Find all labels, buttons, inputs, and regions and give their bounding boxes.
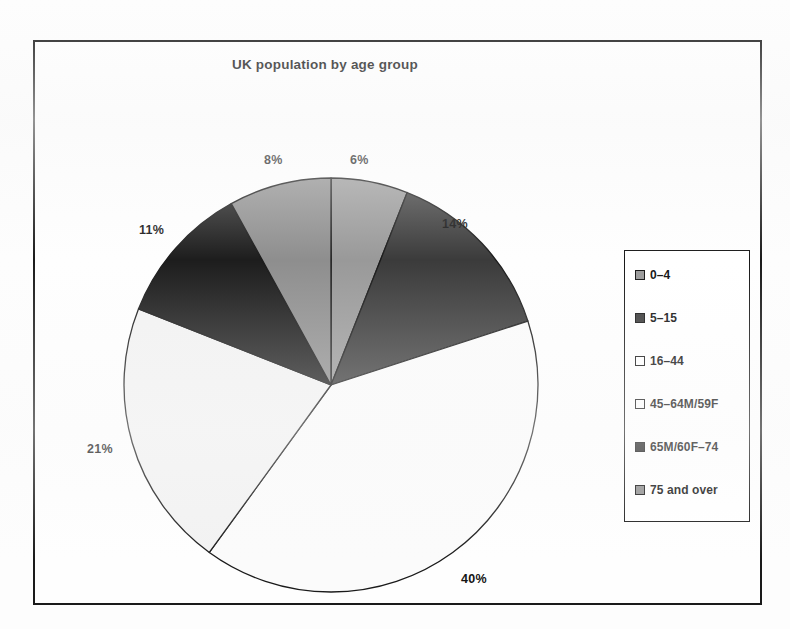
legend-item-label: 16–44 bbox=[650, 354, 684, 368]
pie-value-label: 21% bbox=[87, 442, 113, 456]
pie-value-label: 11% bbox=[139, 223, 164, 237]
screenshot-page: UK population by age group 6%14%40%21%11… bbox=[0, 0, 790, 629]
legend-item[interactable]: 75 and over bbox=[635, 482, 718, 498]
legend-swatch-icon bbox=[635, 442, 645, 452]
legend-item-label: 0–4 bbox=[650, 268, 670, 282]
legend-swatch-icon bbox=[635, 485, 645, 495]
legend-item-label: 45–64M/59F bbox=[650, 397, 718, 411]
legend-swatch-icon bbox=[635, 399, 645, 409]
legend-swatch-icon bbox=[635, 356, 645, 366]
legend-item-label: 75 and over bbox=[650, 483, 718, 497]
pie-value-label: 40% bbox=[461, 572, 487, 586]
legend-swatch-icon bbox=[635, 270, 645, 280]
legend-item-label: 65M/60F–74 bbox=[650, 440, 718, 454]
pie-value-label: 6% bbox=[350, 153, 369, 167]
legend-item[interactable]: 0–4 bbox=[635, 267, 670, 283]
legend-item-label: 5–15 bbox=[650, 311, 677, 325]
legend-swatch-icon bbox=[635, 313, 645, 323]
chart-frame: UK population by age group 6%14%40%21%11… bbox=[33, 40, 762, 605]
pie-value-label: 14% bbox=[442, 217, 468, 231]
legend-item[interactable]: 65M/60F–74 bbox=[635, 439, 718, 455]
legend-item[interactable]: 5–15 bbox=[635, 310, 677, 326]
pie-value-label: 8% bbox=[264, 153, 283, 167]
legend-item[interactable]: 45–64M/59F bbox=[635, 396, 718, 412]
chart-legend: 0–45–1516–4445–64M/59F65M/60F–7475 and o… bbox=[624, 250, 750, 522]
legend-item[interactable]: 16–44 bbox=[635, 353, 684, 369]
